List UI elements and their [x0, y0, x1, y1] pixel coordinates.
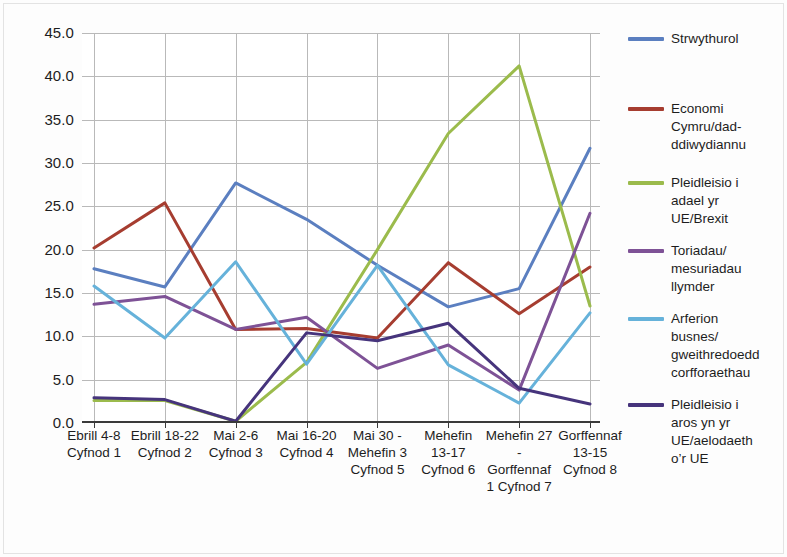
legend-item[interactable]: EconomiCymru/dad-ddiwydiannu	[628, 100, 783, 154]
x-axis-label-line: Cyfnod 8	[548, 461, 633, 478]
legend-label-line: o’r UE	[671, 450, 753, 468]
series-layer	[82, 33, 600, 423]
y-axis-tick-label: 10.0	[18, 328, 74, 343]
x-axis-label-line: 13-15	[548, 444, 633, 461]
legend-item[interactable]: Pleidleisio iadael yrUE/Brexit	[628, 174, 783, 228]
legend-label-line: Cymru/dad-	[671, 118, 746, 136]
y-axis-tick-label: 30.0	[18, 155, 74, 170]
legend-color-swatch	[628, 249, 664, 253]
legend-color-swatch	[628, 37, 664, 41]
legend-label-line: Pleidleisio i	[671, 174, 739, 192]
legend-label-line: llymder	[671, 278, 742, 296]
y-axis-tick-label: 5.0	[18, 372, 74, 387]
series-line	[94, 213, 590, 390]
legend-label-line: aros yn yr	[671, 414, 753, 432]
legend-item-label: Pleidleisio iaros yn yrUE/aelodaetho’r U…	[671, 396, 753, 468]
legend-item-label: Toriadau/mesuriadaullymder	[671, 242, 742, 296]
legend-label-line: gweithredoedd	[671, 346, 760, 364]
legend-item-label: Strwythurol	[671, 30, 739, 48]
legend-item[interactable]: Arferionbusnes/gweithredoeddcorfforaetha…	[628, 310, 783, 382]
legend-color-swatch	[628, 181, 664, 185]
legend-item[interactable]: Strwythurol	[628, 30, 783, 48]
x-axis-line	[82, 421, 600, 423]
legend-label-line: Strwythurol	[671, 30, 739, 48]
legend-label-line: UE/Brexit	[671, 210, 739, 228]
chart-page: 45.040.035.030.025.020.015.010.05.00.0 E…	[0, 0, 787, 557]
legend-label-line: Economi	[671, 100, 746, 118]
legend-item[interactable]: Pleidleisio iaros yn yrUE/aelodaetho’r U…	[628, 396, 783, 468]
legend-label-line: UE/aelodaeth	[671, 432, 753, 450]
chart-legend: StrwythurolEconomiCymru/dad-ddiwydiannuP…	[628, 22, 783, 512]
legend-color-swatch	[628, 403, 664, 407]
legend-label-line: Toriadau/	[671, 242, 742, 260]
x-axis-tick-label: Gorffennaf13-15Cyfnod 8	[548, 427, 633, 478]
y-axis-tick-label: 15.0	[18, 285, 74, 300]
legend-label-line: corfforaethau	[671, 364, 760, 382]
legend-item-label: Arferionbusnes/gweithredoeddcorfforaetha…	[671, 310, 760, 382]
legend-label-line: Arferion	[671, 310, 760, 328]
series-line	[94, 323, 590, 421]
y-axis-tick-label: 40.0	[18, 68, 74, 83]
legend-label-line: adael yr	[671, 192, 739, 210]
y-axis-tick-label: 25.0	[18, 198, 74, 213]
legend-item-label: Pleidleisio iadael yrUE/Brexit	[671, 174, 739, 228]
x-axis-labels: Ebrill 4-8Cyfnod 1Ebrill 18-22Cyfnod 2Ma…	[82, 427, 600, 515]
legend-label-line: Pleidleisio i	[671, 396, 753, 414]
legend-label-line: ddiwydiannu	[671, 136, 746, 154]
y-axis-tick-label: 35.0	[18, 112, 74, 127]
y-axis-tick-label: 20.0	[18, 242, 74, 257]
x-axis-label-line: Gorffennaf	[548, 427, 633, 444]
series-line	[94, 148, 590, 307]
legend-label-line: busnes/	[671, 328, 760, 346]
legend-label-line: mesuriadau	[671, 260, 742, 278]
line-chart: 45.040.035.030.025.020.015.010.05.00.0 E…	[0, 0, 620, 515]
legend-item[interactable]: Toriadau/mesuriadaullymder	[628, 242, 783, 296]
series-line	[94, 203, 590, 338]
legend-item-label: EconomiCymru/dad-ddiwydiannu	[671, 100, 746, 154]
legend-color-swatch	[628, 107, 664, 111]
x-axis-label-line: 1 Cyfnod 7	[477, 478, 562, 495]
plot-area	[82, 33, 600, 423]
y-axis-tick-label: 45.0	[18, 25, 74, 40]
legend-color-swatch	[628, 317, 664, 321]
